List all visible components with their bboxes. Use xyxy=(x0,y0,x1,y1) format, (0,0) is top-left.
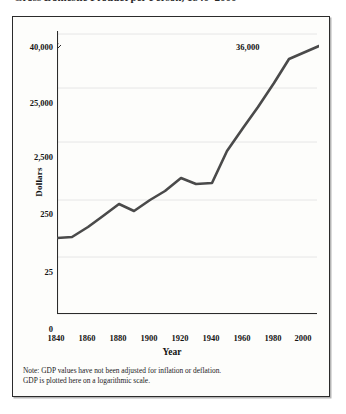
figure-frame: 40,000 25,000 2,500 250 25 0 Dollars xyxy=(12,16,330,397)
footnote-line-2: GDP is plotted here on a logarithmic sca… xyxy=(23,376,323,386)
figure-title-strip: Gross Domestic Product per Person, 1840–… xyxy=(0,0,346,13)
y-tick-25000: 25,000 xyxy=(30,99,53,108)
y-tick-25: 25 xyxy=(45,268,54,277)
x-axis-tick-labels: 1840 1860 1880 1900 1920 1940 1960 1980 … xyxy=(45,333,331,347)
page-title: Gross Domestic Product per Person, 1840–… xyxy=(14,0,236,3)
x-axis-title: Year xyxy=(13,347,331,357)
x-tick-1920: 1920 xyxy=(172,333,189,343)
y-axis-title: Dollars xyxy=(34,152,44,212)
x-tick-1980: 1980 xyxy=(265,333,282,343)
chart-plot-svg xyxy=(57,31,319,329)
x-tick-1880: 1880 xyxy=(110,333,127,343)
axis-lines xyxy=(57,31,317,314)
x-tick-1840: 1840 xyxy=(48,333,65,343)
y-axis-tick-labels: 40,000 25,000 2,500 250 25 0 xyxy=(13,33,53,343)
plot-area xyxy=(57,31,319,329)
x-tick-1860: 1860 xyxy=(79,333,96,343)
x-tick-1940: 1940 xyxy=(203,333,220,343)
x-tick-1960: 1960 xyxy=(234,333,251,343)
footnote-line-1: Note: GDP values have not been adjusted … xyxy=(23,366,323,376)
data-label-36000: 36,000 xyxy=(236,42,259,52)
x-tick-2000: 2000 xyxy=(295,333,312,343)
y-tick-40000: 40,000 xyxy=(30,43,53,52)
x-tick-1900: 1900 xyxy=(141,333,158,343)
figure-footnote: Note: GDP values have not been adjusted … xyxy=(23,366,323,386)
